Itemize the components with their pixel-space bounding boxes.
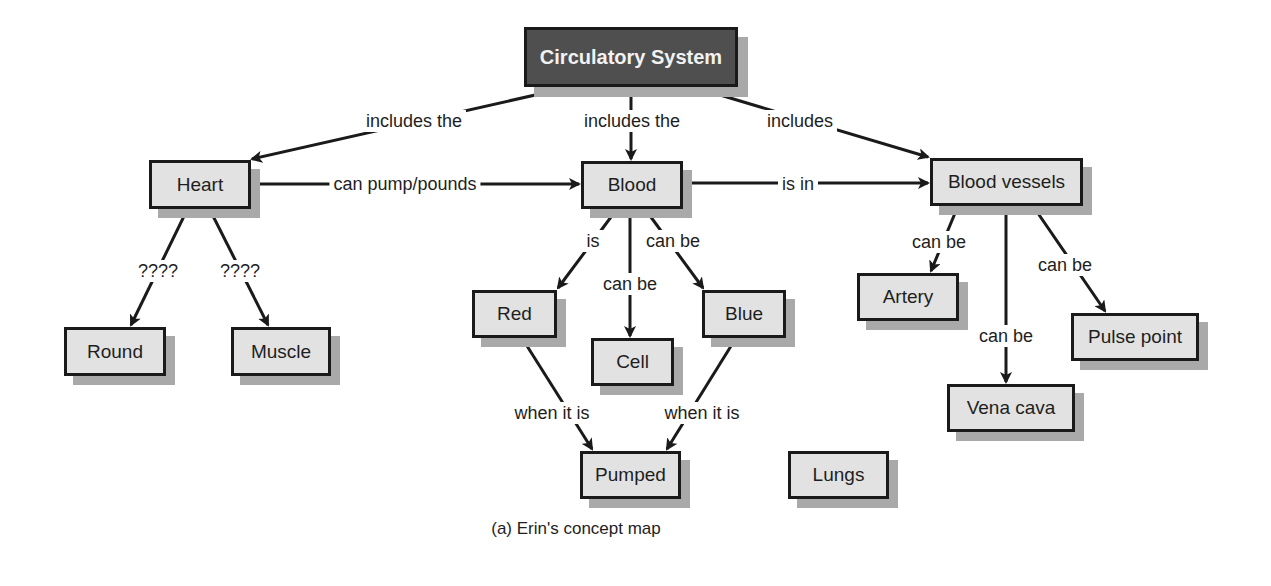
link-label-vessels-artery: can be	[908, 231, 970, 253]
node-artery: Artery	[857, 273, 959, 321]
node-pumped: Pumped	[580, 451, 681, 499]
node-blue: Blue	[702, 290, 786, 338]
node-pulse-point: Pulse point	[1071, 313, 1199, 361]
link-label-blood-vessels: is in	[778, 173, 818, 195]
node-blood: Blood	[581, 161, 683, 209]
node-red: Red	[472, 290, 557, 338]
link-label-blood-cell: can be	[599, 273, 661, 295]
link-label-vessels-vena: can be	[975, 325, 1037, 347]
link-label-vessels-pulse: can be	[1034, 254, 1096, 276]
node-heart: Heart	[149, 160, 251, 209]
link-label-blood-red: is	[583, 230, 604, 252]
node-blood-vessels: Blood vessels	[930, 158, 1083, 206]
figure-caption: (a) Erin's concept map	[491, 519, 661, 539]
node-vena-cava: Vena cava	[947, 384, 1075, 432]
node-circulatory-system: Circulatory System	[524, 27, 738, 87]
link-label-blue-pumped: when it is	[660, 402, 743, 424]
link-label-heart-muscle: ????	[216, 260, 264, 282]
node-lungs: Lungs	[788, 451, 889, 499]
node-round: Round	[64, 327, 166, 376]
node-cell: Cell	[591, 338, 674, 386]
link-label-root-heart: includes the	[362, 110, 466, 132]
node-muscle: Muscle	[231, 327, 331, 376]
link-label-root-vessels: includes	[763, 110, 837, 132]
concept-map: includes the includes the includes can p…	[0, 0, 1271, 586]
link-label-blood-blue: can be	[642, 230, 704, 252]
link-label-heart-round: ????	[134, 260, 182, 282]
link-label-root-blood: includes the	[580, 110, 684, 132]
link-label-red-pumped: when it is	[510, 402, 593, 424]
link-label-heart-blood: can pump/pounds	[329, 173, 480, 195]
